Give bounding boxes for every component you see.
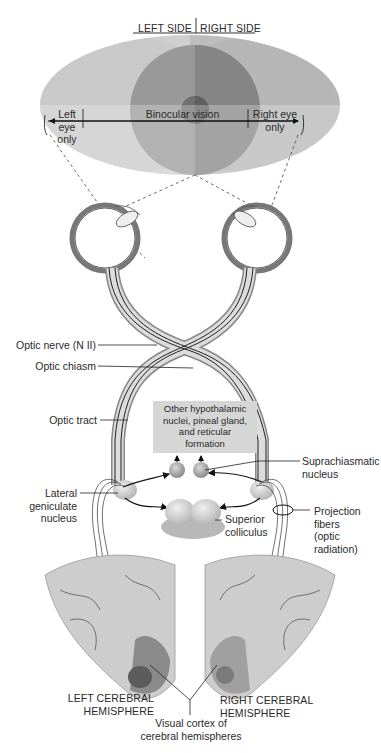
small-nuclei (169, 456, 209, 478)
label-superior-colliculus: Superior colliculus (225, 513, 268, 538)
label-hypothalamic-nuclei: Other hypothalamic nuclei, pineal gland,… (153, 403, 257, 449)
pathway-arrows (123, 473, 262, 508)
label-left-side: LEFT SIDE (138, 22, 192, 35)
label-lateral-geniculate-nucleus: Lateral geniculate nucleus (0, 487, 77, 525)
label-right-eye-only: Right eye only (250, 108, 300, 133)
left-eye (72, 205, 140, 271)
label-left-cerebral-hemisphere: LEFT CEREBRAL HEMISPHERE (40, 692, 154, 717)
superior-colliculus (161, 499, 225, 539)
label-binocular-vision: Binocular vision (120, 108, 245, 121)
left-cerebral-hemisphere (45, 555, 175, 699)
label-right-side: RIGHT SIDE (200, 22, 261, 35)
right-cerebral-hemisphere (205, 555, 335, 699)
label-visual-cortex: Visual cortex of cerebral hemispheres (130, 717, 252, 742)
label-optic-chiasm: Optic chiasm (0, 360, 96, 373)
label-optic-tract: Optic tract (0, 414, 97, 427)
label-suprachiasmatic-nucleus: Suprachiasmatic nucleus (302, 455, 380, 480)
label-left-eye-only: Left eye only (52, 108, 82, 146)
visual-field (5, 35, 378, 175)
label-optic-nerve: Optic nerve (N II) (0, 339, 96, 352)
label-projection-fibers: Projection fibers (optic radiation) (314, 505, 361, 555)
right-eye (224, 205, 290, 271)
label-right-cerebral-hemisphere: RIGHT CEREBRAL HEMISPHERE (220, 694, 313, 719)
